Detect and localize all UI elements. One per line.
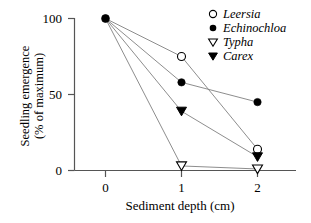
filled-circle-icon <box>205 21 221 35</box>
legend-item-echinochloa: Echinochloa <box>205 21 309 35</box>
legend-label-carex: Carex <box>221 49 253 64</box>
legend-item-leersia: Leersia <box>205 7 309 21</box>
filled-triangle-down-icon <box>205 49 221 63</box>
chart-figure: 100 50 0 0 1 2 Seedling emergence(% of m… <box>0 0 311 223</box>
data-point-echinochloa-x2 <box>254 98 261 105</box>
legend-label-typha: Typha <box>221 35 253 50</box>
y-axis-title: Seedling emergence(% of maximum) <box>18 16 46 176</box>
data-point-origin-x0 <box>102 15 110 23</box>
open-circle-icon <box>205 7 221 21</box>
data-point-carex-x2 <box>253 153 263 162</box>
data-point-carex-x1 <box>177 107 187 116</box>
legend-label-leersia: Leersia <box>221 7 261 22</box>
x-tick-label-1: 1 <box>167 180 196 196</box>
data-point-leersia-x2 <box>254 145 262 153</box>
x-axis-title: Sediment depth (cm) <box>60 198 300 214</box>
legend-label-echinochloa: Echinochloa <box>221 21 286 36</box>
x-tick-label-0: 0 <box>91 180 120 196</box>
data-point-leersia-x1 <box>178 53 186 61</box>
legend-item-carex: Carex <box>205 49 309 63</box>
x-tick-label-2: 2 <box>243 180 272 196</box>
chart-legend: Leersia Echinochloa Typha Carex <box>205 7 309 63</box>
open-triangle-down-icon <box>205 35 221 49</box>
y-axis-title-line1: Seedling emergence <box>18 46 32 147</box>
data-point-typha-x2 <box>253 165 263 174</box>
data-point-echinochloa-x1 <box>178 79 185 86</box>
y-axis-title-line2: (% of maximum) <box>32 53 46 139</box>
legend-item-typha: Typha <box>205 35 309 49</box>
